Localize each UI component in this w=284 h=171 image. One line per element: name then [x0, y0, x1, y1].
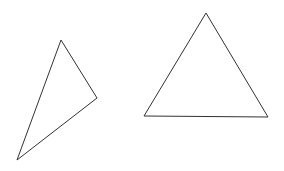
equilateral-triangle — [144, 13, 268, 117]
scalene-triangle — [17, 40, 97, 160]
diagram-canvas — [0, 0, 284, 171]
